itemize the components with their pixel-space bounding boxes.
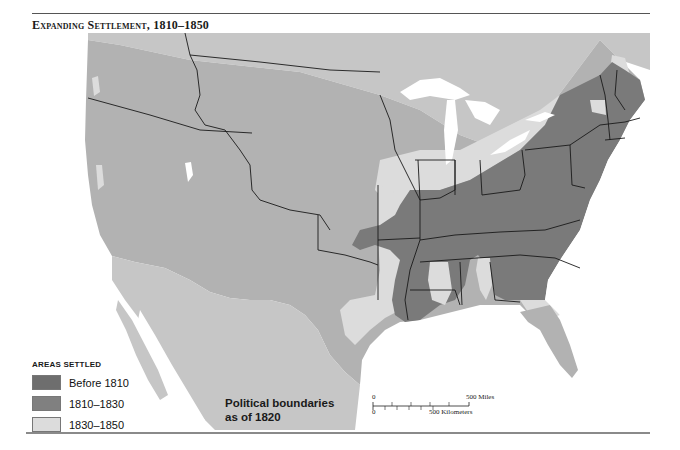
scale-miles-label: 500 Miles [466, 393, 494, 401]
annotation-line-1: Political boundaries [225, 396, 334, 410]
bottom-rule [26, 432, 650, 434]
legend-swatch [32, 417, 61, 432]
scale-km-label: 500 Kilometers [429, 408, 472, 416]
legend-item-before-1810: Before 1810 [32, 372, 129, 393]
scale-bar: 0 500 Miles 0 500 Kilometers [370, 393, 520, 423]
legend-label: 1830–1850 [69, 419, 124, 431]
legend-label: 1810–1830 [69, 398, 124, 410]
scale-zero-miles: 0 [372, 393, 376, 401]
boundaries-annotation: Political boundaries as of 1820 [225, 396, 334, 424]
legend-swatch [32, 396, 61, 411]
annotation-line-2: as of 1820 [225, 410, 334, 424]
legend-item-1810-1830: 1810–1830 [32, 393, 129, 414]
legend: AREAS SETTLED Before 1810 1810–1830 1830… [32, 360, 129, 435]
legend-label: Before 1810 [69, 377, 129, 389]
legend-heading: AREAS SETTLED [32, 360, 129, 369]
legend-swatch [32, 375, 61, 390]
scale-zero-km: 0 [372, 408, 376, 416]
